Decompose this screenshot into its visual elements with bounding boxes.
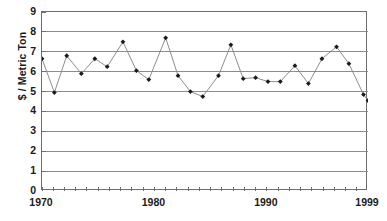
data-point-marker — [105, 64, 110, 69]
plot-svg — [42, 12, 368, 191]
x-tick-label: 1970 — [29, 196, 52, 209]
data-point-marker — [52, 90, 57, 95]
y-tick-label: 1 — [22, 165, 36, 176]
data-point-marker — [163, 35, 168, 40]
data-point-marker — [253, 75, 258, 80]
y-tick-label: 8 — [22, 26, 36, 37]
y-tick-label: 7 — [22, 46, 36, 57]
price-trend-chart: $ / Metric Ton 0123456789 19701980199019… — [0, 0, 387, 221]
y-tick-label: 5 — [22, 85, 36, 96]
y-tick-label: 6 — [22, 65, 36, 76]
plot-area — [41, 11, 367, 190]
y-tick-label: 2 — [22, 145, 36, 156]
x-tick-label: 1999 — [355, 196, 378, 209]
data-point-marker — [121, 39, 126, 44]
data-point-marker — [228, 42, 233, 47]
y-tick-label: 0 — [22, 185, 36, 196]
y-tick-label: 4 — [22, 105, 36, 116]
x-tick-label: 1990 — [254, 196, 277, 209]
data-point-marker — [241, 76, 246, 81]
x-axis-tick-labels: 1970198019901999 — [0, 196, 387, 216]
data-point-marker — [42, 56, 44, 61]
x-tick-label: 1980 — [142, 196, 165, 209]
y-tick-label: 3 — [22, 125, 36, 136]
y-tick-label: 9 — [22, 6, 36, 17]
y-axis-tick-labels: 0123456789 — [22, 0, 36, 221]
data-point-marker — [266, 79, 271, 84]
